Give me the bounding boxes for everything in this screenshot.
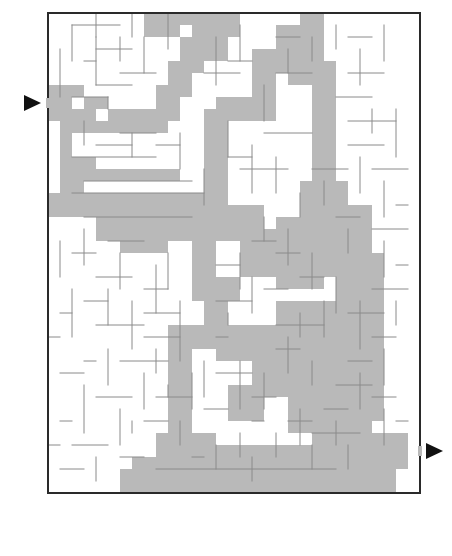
solution-cell [60, 85, 72, 157]
solution-cell [216, 337, 240, 361]
solution-cell [204, 13, 240, 37]
solution-cell [216, 445, 300, 469]
solution-cell [288, 25, 324, 85]
solution-cell [192, 37, 228, 61]
solution-cell [228, 385, 264, 421]
maze-canvas [0, 0, 452, 556]
exit-arrow-icon [426, 443, 443, 459]
exit-opening [418, 446, 422, 456]
entry-arrow-icon [24, 95, 41, 111]
solution-cell [84, 97, 108, 109]
solution-cell [204, 109, 228, 217]
solution-cell [120, 469, 396, 493]
maze-puzzle [0, 0, 452, 556]
solution-cell [156, 433, 192, 469]
solution-cell [372, 433, 408, 469]
solution-cell [60, 169, 180, 181]
solution-cell [300, 445, 336, 469]
entry-opening [46, 98, 50, 108]
